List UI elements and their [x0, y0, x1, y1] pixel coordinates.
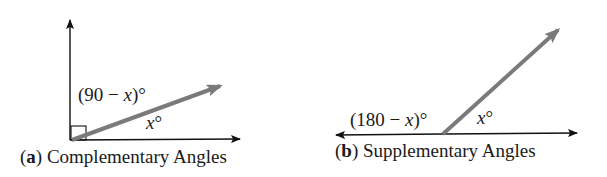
supplement-angle-label: (180 − x)° [350, 109, 427, 131]
panel-complementary: (90 − x)° x° (a) Complementary Angles [20, 20, 240, 168]
caption-supplementary: (b) Supplementary Angles [335, 140, 536, 162]
caption-complementary: (a) Complementary Angles [20, 146, 227, 168]
x-angle-label: x° [476, 107, 493, 128]
angle-ray-arrow [443, 30, 558, 134]
horizontal-axis-arrow [70, 139, 240, 140]
angles-figure: (90 − x)° x° (a) Complementary Angles (1… [0, 0, 607, 177]
panel-supplementary: (180 − x)° x° (b) Supplementary Angles [335, 30, 577, 162]
complement-angle-label: (90 − x)° [78, 84, 146, 106]
x-angle-label: x° [145, 112, 162, 133]
straight-line-double-arrow [442, 133, 577, 134]
straight-line-left-arrow [336, 134, 442, 135]
